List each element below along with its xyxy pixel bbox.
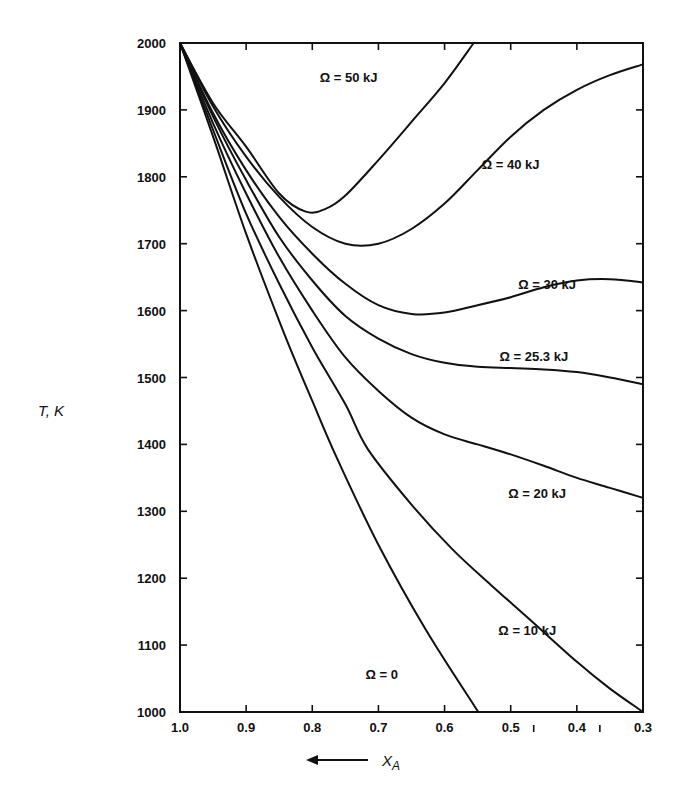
- x-axis-title-group: XA: [306, 752, 400, 773]
- x-tick-label: 0.4: [568, 720, 587, 735]
- curves: [180, 43, 643, 712]
- x-tick-label: 0.5: [502, 720, 520, 735]
- x-tick-label: 1.0: [171, 720, 189, 735]
- curve-label: Ω = 30 kJ: [518, 277, 576, 292]
- y-tick-label: 1400: [137, 437, 166, 452]
- y-tick-label: 1000: [137, 705, 166, 720]
- arrow-head-icon: [306, 755, 318, 765]
- y-tick-label: 2000: [137, 36, 166, 51]
- y-tick-label: 1900: [137, 103, 166, 118]
- curve-omega-50: [180, 43, 474, 213]
- curve-omega-25-3: [180, 43, 643, 384]
- curve-label: Ω = 10 kJ: [498, 623, 556, 638]
- curve-label: Ω = 40 kJ: [482, 157, 540, 172]
- curve-labels: Ω = 0Ω = 10 kJΩ = 20 kJΩ = 25.3 kJΩ = 30…: [320, 70, 576, 682]
- curve-omega-20: [180, 43, 643, 498]
- curve-label: Ω = 50 kJ: [320, 70, 378, 85]
- curve-label: Ω = 25.3 kJ: [500, 349, 569, 364]
- x-tick-label: 0.8: [303, 720, 321, 735]
- x-tick-label: 0.6: [436, 720, 454, 735]
- curve-omega-30: [180, 43, 643, 314]
- y-tick-label: 1100: [138, 638, 166, 653]
- curve-label: Ω = 0: [366, 667, 398, 682]
- y-axis-title: T, K: [38, 402, 65, 419]
- y-tick-label: 1800: [137, 170, 166, 185]
- plot-frame: [180, 43, 643, 712]
- x-tick-label: 0.3: [634, 720, 652, 735]
- curve-omega-10: [180, 43, 643, 712]
- y-tick-label: 1500: [137, 371, 166, 386]
- line-chart: 1.00.90.80.70.60.50.40.31000110012001300…: [0, 0, 689, 798]
- axis-titles: T, K XA: [38, 402, 400, 773]
- curve-label: Ω = 20 kJ: [508, 486, 566, 501]
- x-tick-label: 0.7: [369, 720, 387, 735]
- y-tick-label: 1700: [137, 237, 166, 252]
- plot-area-border: [180, 43, 643, 712]
- y-tick-label: 1200: [137, 571, 166, 586]
- x-axis-title: XA: [381, 752, 400, 773]
- curve-omega-40: [180, 43, 643, 246]
- y-tick-label: 1600: [137, 304, 166, 319]
- x-tick-label: 0.9: [237, 720, 255, 735]
- y-tick-label: 1300: [137, 504, 166, 519]
